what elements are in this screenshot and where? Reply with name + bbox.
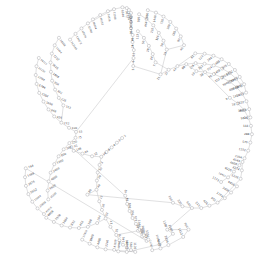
graph-node[interactable] — [31, 200, 34, 203]
graph-node[interactable] — [23, 176, 26, 179]
graph-node[interactable] — [109, 225, 112, 228]
graph-node[interactable] — [52, 220, 55, 223]
graph-node[interactable] — [176, 65, 179, 68]
graph-node[interactable] — [233, 68, 236, 71]
graph-node[interactable] — [24, 167, 27, 170]
graph-node[interactable] — [51, 79, 54, 82]
graph-node[interactable] — [100, 155, 103, 158]
graph-node[interactable] — [96, 171, 99, 174]
graph-node[interactable] — [175, 27, 178, 30]
graph-node[interactable] — [241, 160, 244, 163]
graph-node[interactable] — [49, 70, 52, 73]
graph-node[interactable] — [98, 163, 101, 166]
graph-node[interactable] — [208, 204, 211, 207]
graph-node[interactable] — [190, 206, 193, 209]
graph-node[interactable] — [171, 232, 174, 235]
graph-node[interactable] — [67, 126, 70, 129]
graph-node[interactable] — [74, 130, 77, 133]
graph-node[interactable] — [243, 157, 246, 160]
graph-node[interactable] — [62, 148, 65, 151]
graph-node[interactable] — [91, 18, 94, 21]
graph-node[interactable] — [136, 30, 139, 33]
graph-node[interactable] — [80, 27, 83, 30]
graph-node[interactable] — [96, 221, 99, 224]
graph-node[interactable] — [54, 88, 57, 91]
graph-node[interactable] — [151, 249, 154, 252]
graph-node[interactable] — [220, 58, 223, 61]
graph-node[interactable] — [57, 155, 60, 158]
graph-node[interactable] — [185, 63, 188, 66]
graph-node[interactable] — [159, 247, 162, 250]
graph-node[interactable] — [117, 250, 120, 253]
graph-node[interactable] — [96, 246, 99, 249]
graph-node[interactable] — [162, 39, 165, 42]
graph-node[interactable] — [220, 180, 223, 183]
graph-node[interactable] — [115, 141, 118, 144]
graph-node[interactable] — [203, 52, 206, 55]
graph-node[interactable] — [57, 36, 60, 39]
graph-node[interactable] — [42, 100, 45, 103]
graph-node[interactable] — [240, 169, 243, 172]
graph-node[interactable] — [146, 9, 149, 12]
graph-node[interactable] — [227, 62, 230, 65]
graph-node[interactable] — [125, 7, 128, 10]
graph-node[interactable] — [245, 100, 248, 103]
graph-node[interactable] — [203, 62, 206, 65]
graph-node[interactable] — [182, 44, 185, 47]
graph-node[interactable] — [250, 133, 253, 136]
graph-node[interactable] — [194, 52, 197, 55]
graph-node[interactable] — [238, 75, 241, 78]
graph-node[interactable] — [235, 185, 238, 188]
graph-node[interactable] — [152, 24, 155, 27]
graph-node[interactable] — [81, 238, 84, 241]
graph-node[interactable] — [37, 56, 40, 59]
graph-node[interactable] — [53, 115, 56, 118]
graph-node[interactable] — [95, 188, 98, 191]
graph-node[interactable] — [181, 205, 184, 208]
graph-node[interactable] — [167, 244, 170, 247]
graph-node[interactable] — [194, 62, 197, 65]
graph-node[interactable] — [195, 70, 198, 73]
graph-node[interactable] — [104, 217, 107, 220]
graph-node[interactable] — [86, 225, 89, 228]
graph-node[interactable] — [45, 216, 48, 219]
graph-node[interactable] — [142, 36, 145, 39]
graph-node[interactable] — [38, 91, 41, 94]
graph-node[interactable] — [228, 96, 231, 99]
graph-node[interactable] — [110, 146, 113, 149]
graph-node[interactable] — [249, 141, 252, 144]
graph-node[interactable] — [132, 64, 135, 67]
graph-node[interactable] — [167, 68, 170, 71]
graph-node[interactable] — [154, 61, 157, 64]
graph-node[interactable] — [166, 228, 169, 231]
graph-node[interactable] — [112, 8, 115, 11]
graph-node[interactable] — [35, 82, 38, 85]
graph-node[interactable] — [157, 31, 160, 34]
graph-node[interactable] — [249, 124, 252, 127]
graph-node[interactable] — [154, 11, 157, 14]
graph-node[interactable] — [49, 171, 52, 174]
graph-node[interactable] — [147, 44, 150, 47]
graph-node[interactable] — [34, 73, 37, 76]
graph-node[interactable] — [134, 250, 137, 253]
graph-node[interactable] — [182, 235, 185, 238]
graph-node[interactable] — [245, 91, 248, 94]
graph-node[interactable] — [72, 149, 75, 152]
graph-node[interactable] — [81, 152, 84, 155]
graph-node[interactable] — [151, 53, 154, 56]
graph-node[interactable] — [113, 248, 116, 251]
graph-node[interactable] — [27, 193, 30, 196]
graph-node[interactable] — [68, 142, 71, 145]
graph-node[interactable] — [46, 189, 49, 192]
graph-node[interactable] — [86, 22, 89, 25]
graph-node[interactable] — [36, 207, 39, 210]
graph-node[interactable] — [88, 242, 91, 245]
graph-node[interactable] — [159, 73, 162, 76]
graph-node[interactable] — [74, 32, 77, 35]
graph-node[interactable] — [47, 180, 50, 183]
graph-node[interactable] — [60, 224, 63, 227]
graph-node[interactable] — [162, 15, 165, 18]
graph-node[interactable] — [47, 108, 50, 111]
graph-node[interactable] — [179, 35, 182, 38]
graph-node[interactable] — [121, 6, 124, 9]
